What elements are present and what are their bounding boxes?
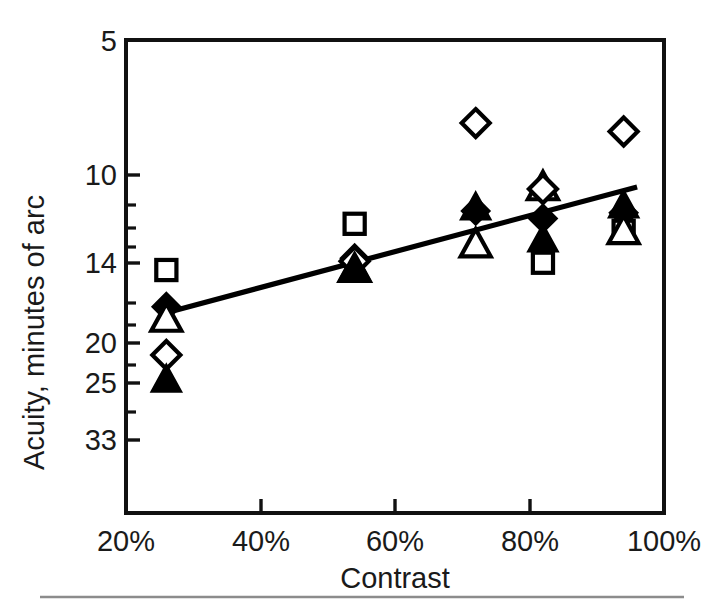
scatter-chart: Acuity, minutes of arc 5 10 14 20 25 33 <box>0 0 719 611</box>
x-tick-label-100: 100% <box>627 525 701 557</box>
y-axis-title-text: Acuity, minutes of arc <box>18 195 50 470</box>
y-tick-label-5: 5 <box>101 25 117 57</box>
y-tick-label-33: 33 <box>85 424 117 456</box>
x-tick-label-80: 80% <box>501 525 559 557</box>
x-axis-title: Contrast <box>340 562 450 594</box>
data-point-open-square-1 <box>345 214 365 234</box>
chart-background <box>0 0 719 611</box>
x-tick-label-20: 20% <box>97 525 155 557</box>
x-tick-label-40: 40% <box>232 525 290 557</box>
y-tick-label-14: 14 <box>85 247 117 279</box>
y-tick-label-10: 10 <box>85 159 117 191</box>
data-point-open-square-2 <box>533 253 553 273</box>
y-axis-title: Acuity, minutes of arc <box>18 195 50 470</box>
figure-container: Acuity, minutes of arc 5 10 14 20 25 33 <box>0 0 719 611</box>
data-point-open-square-0 <box>156 260 176 280</box>
x-tick-label-60: 60% <box>366 525 424 557</box>
y-tick-label-25: 25 <box>85 367 117 399</box>
y-tick-label-20: 20 <box>85 327 117 359</box>
